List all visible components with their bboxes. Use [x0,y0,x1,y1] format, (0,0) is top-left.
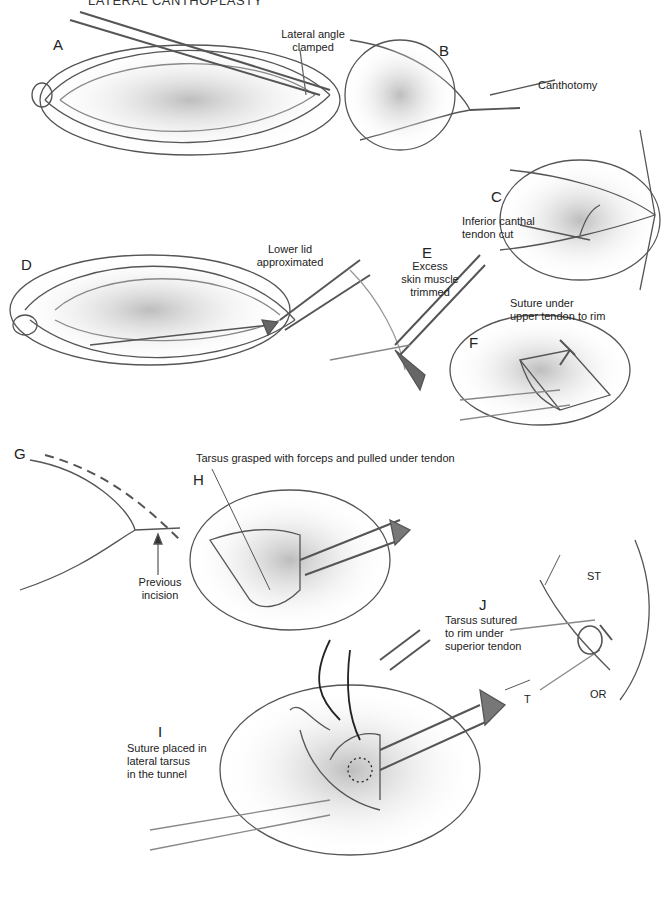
caption-line: skin muscle [395,273,465,286]
caption-line: Lateral angle [268,28,358,41]
panel-d-drawing [10,255,370,365]
label-orbital-rim: OR [590,688,607,701]
caption-line: superior tendon [445,640,521,653]
panel-h-caption: Tarsus grasped with forceps and pulled u… [196,452,455,465]
caption-line: Previous [132,576,188,589]
panel-e-caption: Excess skin muscle trimmed [395,260,465,299]
caption-line: lateral tarsus [127,755,207,768]
panel-b-label: B [439,42,449,59]
panel-f-caption: Suture under upper tendon to rim [510,297,605,323]
panel-g-caption: Previous incision [132,576,188,602]
label-superior-tendon: ST [587,570,601,583]
panel-a-caption: Lateral angle clamped [268,28,358,54]
caption-line: to rim under [445,627,521,640]
panel-c-drawing [500,130,660,290]
caption-line: in the tunnel [127,768,207,781]
panel-h-drawing [190,469,410,630]
panel-j-drawing [505,540,649,700]
page-header: LATERAL CANTHOPLASTY [88,0,263,8]
panel-a-label: A [53,36,63,53]
panel-d-caption: Lower lid approximated [250,243,330,269]
panel-b-caption: Canthotomy [538,79,597,92]
panel-j-label: J [479,596,487,613]
panel-d-label: D [21,256,32,273]
panel-i-label: I [158,723,162,740]
caption-line: approximated [250,256,330,269]
caption-line: trimmed [395,286,465,299]
panel-e-label: E [422,244,432,261]
panel-b-drawing [345,40,555,150]
panel-g-label: G [14,445,26,462]
label-tarsus: T [524,693,531,706]
caption-line: clamped [268,41,358,54]
caption-line: tendon cut [462,228,535,241]
panel-c-caption: Inferior canthal tendon cut [462,215,535,241]
caption-line: Tarsus sutured [445,614,521,627]
caption-line: Inferior canthal [462,215,535,228]
panel-f-label: F [469,334,478,351]
panel-g-drawing [20,455,180,590]
caption-line: upper tendon to rim [510,310,605,323]
panel-i-caption: Suture placed in lateral tarsus in the t… [127,742,207,781]
panel-c-label: C [491,188,502,205]
caption-line: incision [132,589,188,602]
caption-line: Lower lid [250,243,330,256]
caption-line: Suture under [510,297,605,310]
caption-line: Excess [395,260,465,273]
panel-f-drawing [450,315,630,425]
caption-line: Suture placed in [127,742,207,755]
panel-j-caption: Tarsus sutured to rim under superior ten… [445,614,521,653]
panel-h-label: H [193,471,204,488]
